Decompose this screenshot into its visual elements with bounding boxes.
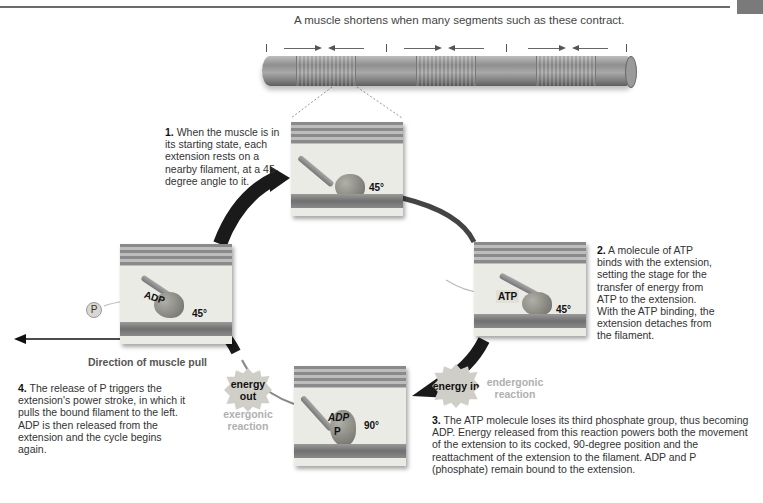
exergonic-label: exergonic reaction	[218, 408, 278, 432]
phosphate-molecule: P	[334, 426, 341, 437]
panel-atp-binding: ATP 45°	[474, 242, 586, 336]
angle-label: 45°	[192, 308, 207, 319]
atp-molecule: ATP	[496, 290, 519, 303]
angle-label: 45°	[369, 182, 384, 193]
angle-label: 90°	[364, 420, 379, 431]
step-4: 4. The release of P triggers the extensi…	[18, 382, 188, 455]
extension-arm	[297, 155, 335, 188]
panel-cocked-position: ADP P 90°	[294, 366, 406, 466]
step-2: 2. A molecule of ATP binds with the exte…	[597, 244, 717, 342]
direction-label: Direction of muscle pull	[88, 356, 207, 368]
step-3: 3. The ATP molecule loses its third phos…	[432, 414, 752, 475]
panel-starting-state: 45°	[291, 122, 403, 216]
panel-power-stroke: ADP 45°	[120, 244, 232, 344]
released-phosphate: P	[86, 302, 102, 318]
endergonic-label: endergonic reaction	[480, 376, 550, 400]
adp-molecule: ADP	[328, 412, 349, 423]
step-1: 1. When the muscle is in its starting st…	[165, 126, 290, 187]
filament	[291, 194, 403, 208]
filament	[120, 322, 232, 336]
angle-label: 45°	[556, 304, 571, 315]
extension-head	[522, 292, 552, 316]
filament	[294, 444, 406, 458]
filament	[474, 314, 586, 328]
